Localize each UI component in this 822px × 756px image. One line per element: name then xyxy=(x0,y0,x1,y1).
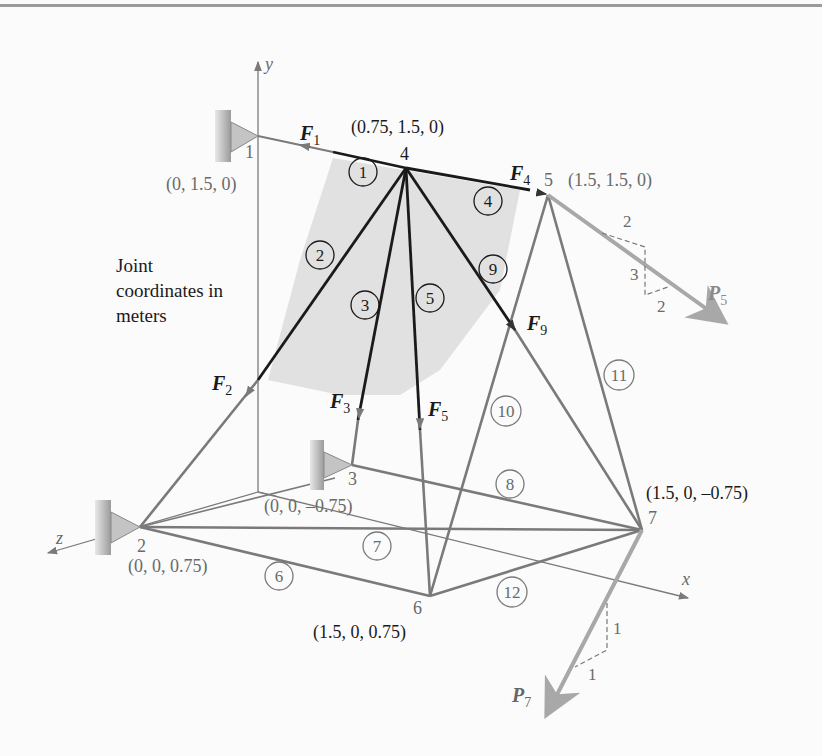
y-axis-label: y xyxy=(263,54,273,74)
p7-slope-bottom: 1 xyxy=(588,665,597,684)
force-label-f5: F5 xyxy=(427,398,448,424)
svg-text:meters: meters xyxy=(116,305,167,326)
joint-number-3: 3 xyxy=(348,469,357,489)
p5-slope-side: 3 xyxy=(630,265,639,284)
joint-number-6: 6 xyxy=(413,598,422,618)
force-label-f4: F4 xyxy=(509,162,530,188)
svg-text:11: 11 xyxy=(611,366,627,385)
force-label-f2: F2 xyxy=(211,372,232,398)
p5-slope-bottom: 2 xyxy=(657,297,666,316)
p7-slope-side: 1 xyxy=(613,619,622,638)
units-note: Joint coordinates in meters xyxy=(116,255,224,326)
joint-number-5: 5 xyxy=(544,170,553,190)
svg-text:7: 7 xyxy=(373,537,382,556)
support-joint-3 xyxy=(310,440,352,490)
svg-text:8: 8 xyxy=(506,475,515,494)
svg-text:12: 12 xyxy=(504,583,521,602)
load-p5: 2 3 2 P5 xyxy=(548,195,727,320)
force-label-f9: F9 xyxy=(526,312,547,338)
svg-text:2: 2 xyxy=(316,246,325,265)
svg-text:5: 5 xyxy=(426,289,435,308)
svg-text:1: 1 xyxy=(359,163,368,182)
svg-text:10: 10 xyxy=(498,402,515,421)
member-label-7: 7 xyxy=(363,532,391,560)
support-joint-2 xyxy=(95,500,140,555)
svg-text:3: 3 xyxy=(361,296,370,315)
joint-coords-6: (1.5, 0, 0.75) xyxy=(313,622,406,643)
p7-label: P7 xyxy=(511,684,531,710)
free-body-highlight xyxy=(268,158,520,395)
svg-text:6: 6 xyxy=(275,567,284,586)
member-label-10: 10 xyxy=(491,396,521,426)
x-axis-label: x xyxy=(681,569,690,589)
figure-page: y z x xyxy=(0,0,822,756)
load-p7: 1 1 P7 xyxy=(511,530,642,712)
member-label-8: 8 xyxy=(496,470,524,498)
joint-coords-7: (1.5, 0, –0.75) xyxy=(646,483,748,504)
svg-text:9: 9 xyxy=(489,260,498,279)
joint-coords-2: (0, 0, 0.75) xyxy=(128,556,208,577)
joint-coords-4: (0.75, 1.5, 0) xyxy=(351,117,444,138)
member-label-11: 11 xyxy=(604,360,634,390)
z-axis-label: z xyxy=(55,528,63,548)
joint-number-4: 4 xyxy=(400,144,409,164)
joint-coords-3: (0, 0, –0.75) xyxy=(264,496,353,517)
member-label-12: 12 xyxy=(497,577,527,607)
member-label-6: 6 xyxy=(265,562,293,590)
space-truss-diagram: y z x xyxy=(0,0,822,756)
svg-text:Joint: Joint xyxy=(116,255,154,276)
joint-number-1: 1 xyxy=(245,142,254,162)
joint-coords-5: (1.5, 1.5, 0) xyxy=(568,170,652,191)
force-label-f1: F1 xyxy=(299,122,320,148)
p5-label: P5 xyxy=(707,282,727,308)
joint-number-7: 7 xyxy=(648,508,657,528)
svg-text:4: 4 xyxy=(484,192,493,211)
joint-number-2: 2 xyxy=(137,536,146,556)
joint-coords-1: (0, 1.5, 0) xyxy=(166,174,237,195)
svg-text:coordinates in: coordinates in xyxy=(116,280,224,301)
p5-slope-top: 2 xyxy=(623,212,632,231)
